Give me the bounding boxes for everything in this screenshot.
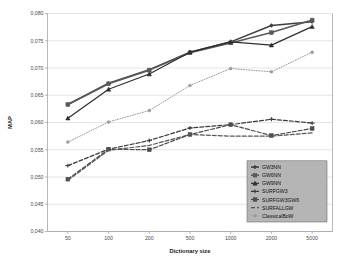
data-point-dot (148, 109, 151, 112)
x-tick-label: 5000 (306, 235, 318, 241)
data-point-dot (311, 51, 314, 54)
data-point-cross (269, 117, 274, 121)
data-point-dot (66, 141, 69, 144)
y-axis-tick-labels: 0,0400,0450,0500,0550,0600,0650,0700,075… (31, 10, 48, 234)
data-point-square (310, 18, 314, 22)
legend-label: ClassicalBoW (262, 213, 294, 219)
data-point-dot (189, 84, 192, 87)
legend-label: GW6NN (262, 172, 281, 178)
legend-item-GW6NN[interactable]: GW6NN (251, 172, 281, 178)
data-point-dot (270, 70, 273, 73)
data-point-dot (229, 67, 232, 70)
y-tick-label: 0,065 (31, 92, 44, 98)
y-axis-title: MAP (7, 116, 13, 129)
data-point-square (253, 173, 257, 177)
chart-legend: GW3NNGW6NNGW9NNSURFGW3SURFGW3GW6SURFALLG… (247, 161, 327, 222)
data-point-square (107, 82, 111, 86)
data-point-square (270, 31, 274, 35)
y-tick-label: 0,080 (31, 10, 44, 16)
data-point-square (66, 103, 70, 107)
data-series (65, 18, 314, 181)
x-tick-label: 200 (145, 235, 154, 241)
data-point-cross (147, 139, 152, 143)
data-point-cross (188, 126, 193, 130)
data-point-square (229, 123, 233, 127)
y-tick-label: 0,075 (31, 38, 44, 44)
legend-label: GW3NN (262, 164, 281, 170)
x-axis-title: Dictionary size (170, 248, 212, 254)
series-GW9NN (66, 24, 315, 120)
series-line (68, 27, 312, 119)
x-tick-label: 50 (65, 235, 71, 241)
data-point-square (253, 198, 257, 202)
y-tick-label: 0,070 (31, 65, 44, 71)
legend-label: GW9NN (262, 180, 281, 186)
y-tick-label: 0,060 (31, 119, 44, 125)
x-tick-label: 2000 (266, 235, 278, 241)
legend-label: SURFGW3 (262, 188, 288, 194)
y-tick-label: 0,040 (31, 228, 44, 234)
y-tick-label: 0,050 (31, 174, 44, 180)
legend-label: SURFGW3GW6 (262, 197, 299, 203)
data-point-square (310, 127, 314, 131)
chart-container: 0,0400,0450,0500,0550,0600,0650,0700,075… (0, 0, 351, 271)
data-point-triangle (310, 24, 314, 28)
y-tick-label: 0,045 (31, 201, 44, 207)
x-tick-label: 100 (104, 235, 113, 241)
y-tick-label: 0,055 (31, 147, 44, 153)
chart-plot: 0,0400,0450,0500,0550,0600,0650,0700,075… (0, 0, 351, 271)
data-point-dot (107, 120, 110, 123)
x-tick-label: 1000 (225, 235, 237, 241)
data-point-cross (310, 121, 315, 125)
legend-label: SURFALLGW (262, 205, 294, 211)
x-axis-tick-labels: 50100200500100020005000 (65, 232, 318, 241)
x-tick-label: 500 (186, 235, 195, 241)
data-point-square (147, 148, 151, 152)
data-point-dot (254, 214, 257, 217)
